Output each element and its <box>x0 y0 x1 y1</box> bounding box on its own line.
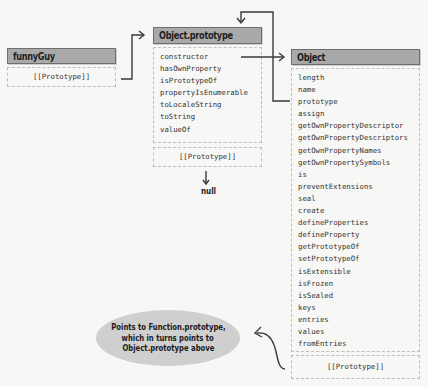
connector-arrows <box>0 0 428 386</box>
arrow-funnyguy-to-object-prototype <box>121 35 143 79</box>
arrow-object-proto-to-callout <box>257 333 285 369</box>
